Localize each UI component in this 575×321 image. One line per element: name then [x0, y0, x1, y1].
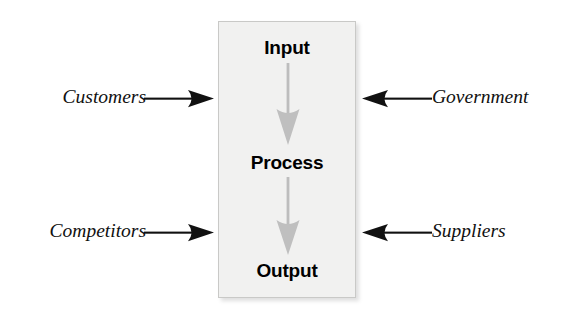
diagram-canvas: Input Process Output Customers Competito… — [0, 0, 575, 321]
external-factor-label-customers: Customers — [36, 86, 146, 108]
arrow-right-customers-icon — [144, 88, 214, 114]
flow-arrow-input-to-process-icon — [268, 63, 308, 149]
arrow-left-suppliers-icon — [362, 222, 432, 248]
flow-arrow-process-to-output-icon — [268, 177, 308, 259]
arrow-left-government-icon — [362, 88, 432, 114]
external-factor-label-government: Government — [432, 86, 572, 108]
stage-label-input: Input — [218, 37, 356, 59]
external-factor-label-suppliers: Suppliers — [432, 220, 572, 242]
arrow-right-competitors-icon — [144, 222, 214, 248]
stage-label-output: Output — [218, 260, 356, 282]
stage-label-process: Process — [218, 152, 356, 174]
external-factor-label-competitors: Competitors — [16, 220, 146, 242]
